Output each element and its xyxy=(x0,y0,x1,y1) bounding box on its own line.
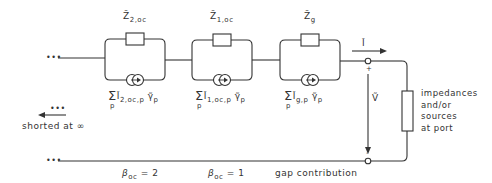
stage-3-source-label: ΣĨg,p γ̃p xyxy=(284,88,323,101)
stage-3-sum-index: p xyxy=(286,103,291,110)
voltage-label: Ṽ xyxy=(372,94,379,103)
stage-1-source-label: ΣĨ2,oc,p γ̃p xyxy=(108,88,159,101)
stage-2-sum-index: p xyxy=(197,103,202,110)
circuit-diagram: ••• ••• ••• shorted at ∞ Z̃2,oc ΣĨ2,oc,p… xyxy=(0,0,492,183)
stage-2-source-label: ΣĨ1,oc,p γ̃p xyxy=(195,88,246,101)
circuit-wiring xyxy=(0,0,492,183)
gap-contribution-label: gap contribution xyxy=(275,169,357,178)
beta-oc-1-label: βoc = 1 xyxy=(208,169,244,178)
stage-3-impedance-label: Z̃g xyxy=(304,12,316,21)
left-continuation-dots-top: ••• xyxy=(46,54,62,62)
stage-1-sum-index: p xyxy=(110,103,115,110)
stage-2-impedance-label: Z̃1,oc xyxy=(210,12,233,21)
stage-1-impedance-label: Z̃2,oc xyxy=(123,12,146,21)
plus-sign: + xyxy=(366,66,372,73)
shorted-continuation-dots: ••• xyxy=(50,105,66,113)
minus-sign: - xyxy=(366,150,369,157)
current-label: Ĩ xyxy=(362,39,365,48)
beta-oc-2-label: βoc = 2 xyxy=(122,169,158,178)
port-description: impedances and/or sources at port xyxy=(421,88,478,134)
left-continuation-dots-bottom: ••• xyxy=(46,157,62,165)
shorted-at-infinity-label: shorted at ∞ xyxy=(22,122,85,131)
